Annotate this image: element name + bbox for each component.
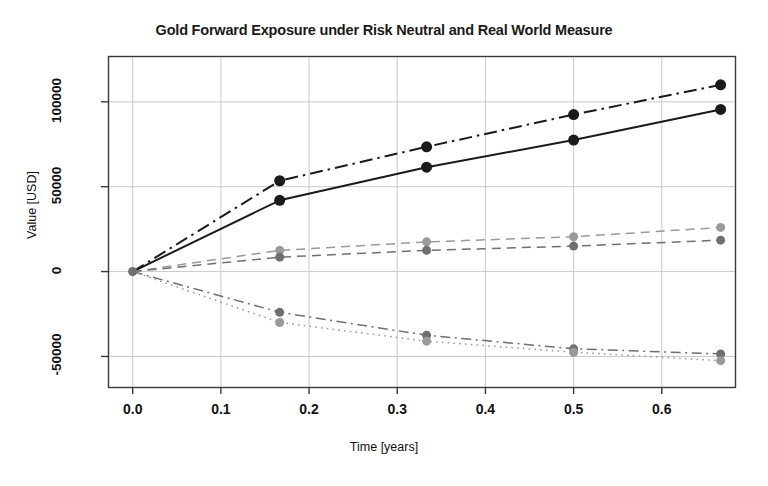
data-point-lower-dotted-lightgray-1 bbox=[275, 318, 284, 327]
chart-canvas: Gold Forward Exposure under Risk Neutral… bbox=[0, 0, 768, 486]
data-point-upper-solid-black-3 bbox=[568, 135, 579, 146]
data-point-upper-solid-black-2 bbox=[421, 162, 432, 173]
x-axis-title: Time [years] bbox=[0, 440, 768, 454]
data-point-middle-dashed-darkgray-4 bbox=[716, 236, 725, 245]
y-tick-label-0: -50000 bbox=[49, 310, 64, 400]
data-point-middle-dashed-lightgray-3 bbox=[569, 232, 578, 241]
x-tick-label-5: 0.5 bbox=[544, 401, 604, 417]
data-point-upper-dashdot-black-2 bbox=[421, 141, 432, 152]
plot-frame bbox=[109, 57, 736, 388]
x-tick-label-2: 0.2 bbox=[279, 401, 339, 417]
data-point-lower-dotted-lightgray-3 bbox=[569, 348, 578, 357]
data-point-upper-dashdot-black-1 bbox=[274, 175, 285, 186]
y-tick-label-3: 100000 bbox=[49, 55, 64, 145]
data-point-origin bbox=[128, 267, 137, 276]
y-tick-label-2: 50000 bbox=[49, 140, 64, 230]
data-point-upper-solid-black-1 bbox=[274, 195, 285, 206]
y-axis-title: Value [USD] bbox=[25, 115, 39, 295]
x-tick-label-0: 0.0 bbox=[103, 401, 163, 417]
data-point-upper-dashdot-black-3 bbox=[568, 109, 579, 120]
x-tick-label-4: 0.4 bbox=[455, 401, 515, 417]
x-tick-label-3: 0.3 bbox=[367, 401, 427, 417]
data-point-middle-dashed-lightgray-4 bbox=[716, 223, 725, 232]
data-point-upper-solid-black-4 bbox=[715, 104, 726, 115]
x-tick-label-1: 0.1 bbox=[191, 401, 251, 417]
data-point-middle-dashed-darkgray-3 bbox=[569, 242, 578, 251]
data-point-lower-dotted-lightgray-4 bbox=[716, 356, 725, 365]
data-point-middle-dashed-lightgray-2 bbox=[422, 237, 431, 246]
gridlines bbox=[108, 56, 735, 387]
data-point-lower-dotted-lightgray-2 bbox=[422, 337, 431, 346]
y-tick-label-1: 0 bbox=[49, 225, 64, 315]
data-point-lower-dashdot-darkgray-1 bbox=[275, 308, 284, 317]
data-marker-layer bbox=[128, 79, 726, 365]
data-point-upper-dashdot-black-4 bbox=[715, 79, 726, 90]
x-tick-label-6: 0.6 bbox=[632, 401, 692, 417]
data-point-middle-dashed-darkgray-2 bbox=[422, 246, 431, 255]
data-point-middle-dashed-darkgray-1 bbox=[275, 253, 284, 262]
